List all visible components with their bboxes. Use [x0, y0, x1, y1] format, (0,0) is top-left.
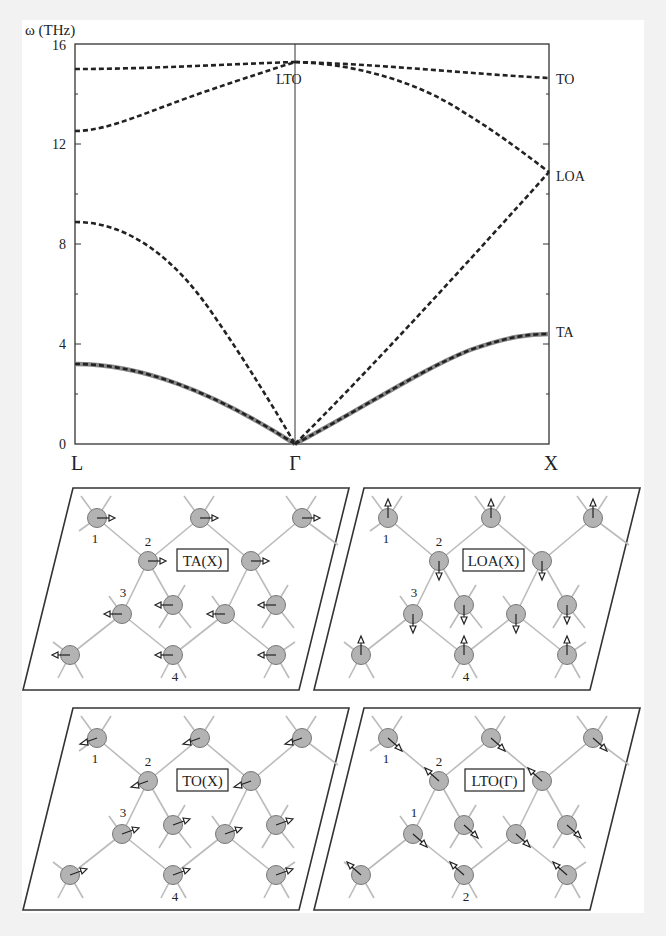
atom-number-1b: 1 [411, 805, 418, 820]
label-TA: TA [556, 325, 574, 340]
atom-number-2: 2 [436, 754, 443, 769]
y-axis-label: ω (THz) [25, 22, 75, 39]
atom-number-1: 1 [383, 531, 390, 546]
atom-number-2b: 2 [463, 889, 470, 904]
panel-LTO-Gamma: LTO(Γ) 1 2 1 2 [314, 708, 640, 910]
atom-number-3: 3 [411, 585, 418, 600]
panel-TA-X: TA(X) 1 2 3 4 [23, 488, 349, 690]
atom-number-1: 1 [92, 531, 99, 546]
atom-number-4: 4 [172, 669, 179, 684]
atom-number-2: 2 [436, 534, 443, 549]
atom-number-4: 4 [463, 669, 470, 684]
panel-label: LOA(X) [468, 553, 520, 570]
x-tick-X: X [544, 452, 559, 474]
panel-LOA-X: LOA(X) 1 2 3 4 [314, 488, 640, 690]
y-tick-16: 16 [52, 38, 66, 53]
panel-label: TO(X) [182, 773, 223, 790]
label-LTO: LTO [276, 72, 302, 87]
atom-number-3: 3 [120, 805, 127, 820]
panel-TO-X: TO(X) 1 2 3 4 [23, 708, 349, 910]
x-tick-gamma: Γ [289, 452, 301, 474]
label-TO: TO [556, 72, 574, 87]
dispersion-chart: ω (THz) 0 4 8 12 16 L Γ X [25, 22, 586, 474]
panel-label: TA(X) [183, 553, 223, 570]
y-tick-8: 8 [59, 237, 66, 252]
displacement-arrows [70, 738, 302, 875]
atom-number-4: 4 [172, 889, 179, 904]
y-tick-4: 4 [59, 337, 66, 352]
y-tick-12: 12 [52, 137, 66, 152]
atom-number-1: 1 [383, 751, 390, 766]
dispersion-curves [75, 62, 549, 444]
atom-number-2: 2 [145, 754, 152, 769]
panel-label: LTO(Γ) [471, 773, 517, 790]
atom-number-2: 2 [145, 534, 152, 549]
x-tick-L: L [71, 452, 83, 474]
atom-number-1: 1 [92, 751, 99, 766]
phonon-figure: ω (THz) 0 4 8 12 16 L Γ X [0, 0, 666, 936]
y-tick-0: 0 [59, 437, 66, 452]
label-LOA: LOA [556, 169, 586, 184]
atom-number-3: 3 [120, 585, 127, 600]
